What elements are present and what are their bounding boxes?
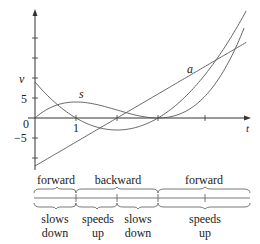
speed-label-1-line1: slows	[41, 212, 69, 226]
direction-label-2: backward	[95, 173, 142, 187]
y-axis-arrow-icon	[33, 9, 38, 16]
direction-label-1: forward	[37, 173, 75, 187]
t-axis-arrow-icon	[244, 116, 251, 121]
direction-label-3: forward	[185, 173, 223, 187]
speed-label-2-line1: speeds	[82, 212, 114, 226]
speed-label-3-line2: down	[125, 226, 152, 240]
y-tick-neg5: −5	[14, 131, 27, 145]
y-tick-5: 5	[21, 92, 27, 106]
speed-label-1-line2: down	[42, 226, 69, 240]
s-label: s	[79, 87, 84, 101]
t-label: t	[246, 122, 250, 134]
interval-braces	[34, 187, 250, 209]
v-label: v	[19, 72, 25, 86]
speed-label-2-line2: up	[92, 226, 104, 240]
velocity-curve	[35, 11, 246, 130]
x-tick-1: 1	[73, 121, 79, 135]
speed-label-4-line2: up	[199, 226, 211, 240]
speed-label-4-line1: speeds	[189, 212, 221, 226]
y-tick-0: 0	[23, 117, 29, 131]
motion-graph: v s a t 5 0 −5 1 forward backward forwar…	[0, 0, 260, 244]
a-label: a	[187, 62, 193, 76]
speed-label-3-line1: slows	[124, 212, 152, 226]
acceleration-curve	[35, 42, 246, 166]
